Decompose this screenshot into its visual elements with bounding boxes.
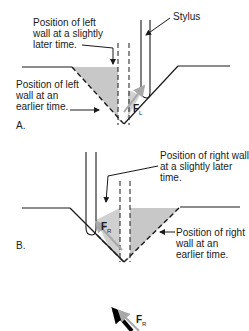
panel-a-label: A. — [16, 120, 25, 131]
force-label-b: FR — [101, 221, 111, 234]
stylus — [141, 20, 150, 98]
left-wall-earlier-label: Position of left wall at an earlier time… — [16, 79, 79, 112]
stylus-label: Stylus — [173, 11, 200, 22]
panel-b-label: B. — [16, 240, 25, 251]
force-label-resultant: FR — [136, 314, 146, 327]
left-wall-later-label: Position of left wall at a slightly late… — [33, 17, 103, 50]
stylus — [86, 152, 96, 235]
right-wall-later-label: Position of right wall at a slightly lat… — [160, 150, 249, 183]
force-label-a: FL — [133, 103, 142, 116]
right-wall-earlier-label: Position of right wall at an earlier tim… — [176, 227, 245, 260]
